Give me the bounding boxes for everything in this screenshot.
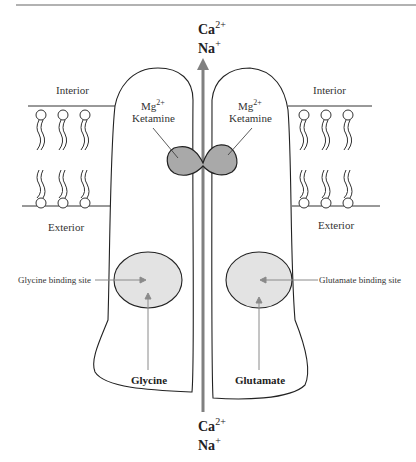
exterior-label-left: Exterior (48, 221, 84, 233)
membrane-left (22, 106, 115, 206)
interior-label-right: Interior (313, 84, 346, 96)
lipid-bilayer-left-icon (36, 110, 90, 208)
ion-na-bottom: Na+ (198, 435, 221, 453)
exterior-label-right: Exterior (318, 219, 354, 231)
ion-ca-top: Ca2+ (198, 19, 226, 37)
glycine-label: Glycine (131, 374, 167, 386)
glycine-site-label: Glycine binding site (18, 275, 91, 285)
ketamine-label-left: Ketamine (132, 112, 175, 124)
nmda-diagram: Ca2+ Na+ Interior Interior Exterior Exte… (0, 0, 416, 462)
ion-flow-arrow-icon (197, 58, 209, 412)
ketamine-label-right: Ketamine (229, 112, 272, 124)
lipid-bilayer-right-icon (299, 110, 353, 208)
interior-label-left: Interior (56, 84, 89, 96)
glutamate-label: Glutamate (235, 374, 285, 386)
ion-ca-bottom: Ca2+ (198, 416, 226, 434)
ion-na-top: Na+ (198, 38, 221, 56)
glutamate-site-label: Glutamate binding site (319, 275, 401, 285)
